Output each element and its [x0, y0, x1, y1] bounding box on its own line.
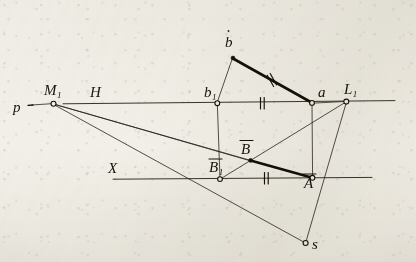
- label-s: s: [312, 236, 318, 252]
- label-b-bar: B: [241, 141, 250, 157]
- stray-ink-dot: [228, 30, 230, 32]
- line-b1-to-b: [217, 58, 233, 103]
- marker-b: [231, 56, 235, 60]
- segment-b-to-a: [233, 59, 312, 103]
- line-p-to-m1: [32, 104, 53, 105]
- marker-b-bar: [249, 159, 253, 163]
- geometry-figure: p M1 H X b b1 a L1 B B1 A s: [0, 0, 416, 262]
- label-m1: M1: [43, 82, 62, 100]
- label-a: a: [318, 84, 326, 100]
- marker-m1: [51, 101, 56, 106]
- construction-lines: [32, 58, 347, 243]
- marker-s: [303, 241, 308, 246]
- label-l1: L1: [343, 81, 357, 99]
- marker-b1-bar: [218, 177, 223, 182]
- label-b1-bar: B1: [209, 159, 223, 177]
- label-h: H: [89, 84, 102, 100]
- marker-a: [310, 101, 315, 106]
- overbars: [209, 141, 316, 175]
- tick-pair-b1-a: [261, 98, 265, 110]
- ray-m1-to-bbar: [54, 104, 252, 161]
- line-a-vertical-to-abar: [312, 103, 313, 178]
- drawing-sheet: p M1 H X b b1 a L1 B B1 A s: [0, 0, 416, 262]
- labels: p M1 H X b b1 a L1 B B1 A s: [12, 34, 357, 252]
- label-x: X: [107, 160, 118, 176]
- marker-l1: [344, 99, 349, 104]
- x-reference-line: [113, 177, 372, 179]
- segment-bbar-to-abar: [251, 161, 312, 178]
- label-b: b: [225, 34, 233, 50]
- point-markers: [28, 30, 349, 245]
- label-p: p: [12, 99, 21, 115]
- label-a-bar: A: [303, 175, 314, 191]
- label-b1: b1: [204, 84, 217, 102]
